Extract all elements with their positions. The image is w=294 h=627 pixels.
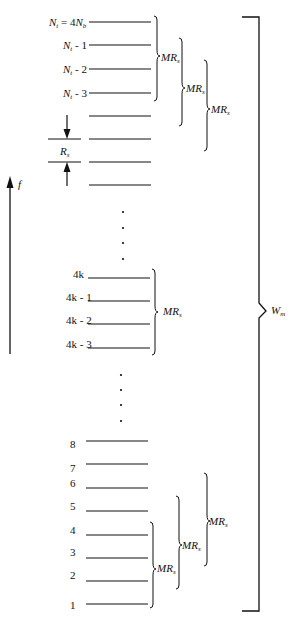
level-label: 4 <box>70 524 76 536</box>
spacing-label-Rs: Rs <box>59 145 70 159</box>
level-label-Nt-3: Nt - 3 <box>62 87 87 101</box>
level-label: 4k - 1 <box>66 291 92 303</box>
brace-label-mr: MRs <box>208 515 228 529</box>
axis-label-f: f <box>18 178 23 190</box>
level-label: 5 <box>70 500 76 512</box>
brace-label-mr: MRs <box>162 305 182 319</box>
brace-label-mr: MRs <box>210 103 230 117</box>
level-label: 8 <box>70 438 76 450</box>
bottom-levels: 8 7 6 5 4 3 2 1 MRs MRs MRs <box>70 438 228 611</box>
brace-label-mr: MRs <box>181 539 201 553</box>
level-label-Nt-4Nb: Nt = 4Nb <box>48 16 87 30</box>
span-label-wm: Wm <box>271 304 285 318</box>
top-levels: Nt = 4Nb Nt - 1 Nt - 2 Nt - 3 <box>48 16 151 185</box>
level-label: 7 <box>70 462 76 474</box>
brace-label-mr: MRs <box>160 51 180 65</box>
brace-label-mr: MRs <box>156 562 176 576</box>
level-label-Nt-2: Nt - 2 <box>62 63 87 77</box>
level-label-Nt-1: Nt - 1 <box>62 39 87 53</box>
frequency-band-diagram: f Nt = 4Nb Nt - 1 Nt - 2 Nt - 3 Rs MRs M… <box>0 0 294 627</box>
level-label: 4k - 2 <box>66 314 92 326</box>
ellipsis <box>120 211 124 422</box>
level-label: 6 <box>70 477 76 489</box>
frequency-axis: f <box>7 176 24 354</box>
level-label: 3 <box>70 546 76 558</box>
level-label: 4k <box>73 268 85 280</box>
middle-levels: 4k 4k - 1 4k - 2 4k - 3 MRs <box>66 268 182 355</box>
level-label: 1 <box>70 599 76 611</box>
span-bracket-wm: Wm <box>242 17 285 611</box>
level-label: 4k - 3 <box>66 338 92 350</box>
level-label: 2 <box>70 569 76 581</box>
brace-label-mr: MRs <box>185 82 205 96</box>
top-braces: MRs MRs MRs <box>154 16 230 151</box>
spacing-indicator: Rs <box>48 115 81 186</box>
